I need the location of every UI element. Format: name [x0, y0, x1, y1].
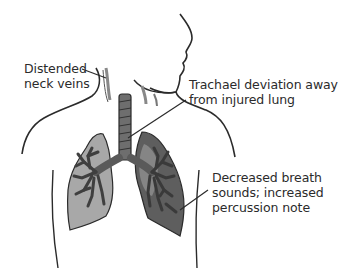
- pneumothorax-diagram: Distended neck veins Trachael deviation …: [0, 0, 338, 277]
- label-line: neck veins: [24, 76, 90, 91]
- torso-right-outline: [196, 170, 199, 268]
- label-line: percussion note: [212, 200, 324, 215]
- label-line: Decreased breath: [212, 170, 324, 185]
- anatomy-illustration: [0, 0, 338, 277]
- label-line: Trachael deviation away: [189, 77, 338, 92]
- face-profile-outline: [150, 14, 192, 93]
- label-tracheal-deviation: Trachael deviation away from injured lun…: [189, 77, 338, 107]
- label-decreased-breath-sounds: Decreased breath sounds; increased percu…: [212, 170, 324, 215]
- label-distended-neck-veins: Distended neck veins: [24, 61, 90, 91]
- label-line: from injured lung: [189, 92, 338, 107]
- label-line: sounds; increased: [212, 185, 324, 200]
- torso-left-outline: [52, 170, 58, 268]
- label-line: Distended: [24, 61, 90, 76]
- neck-vein-right-2: [154, 94, 157, 106]
